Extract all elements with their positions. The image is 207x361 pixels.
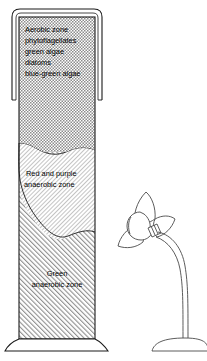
aerobic-line-2: phytoflagellates [25, 36, 77, 45]
figure-canvas: Aerobic zone phytoflagellates green alga… [0, 0, 207, 361]
diagram-svg: Aerobic zone phytoflagellates green alga… [0, 0, 207, 361]
aerobic-line-4: diatoms [25, 58, 51, 67]
gooseneck-arm-inner [156, 237, 183, 338]
lamp-base [152, 338, 207, 351]
gooseneck-arm-outer [158, 232, 188, 338]
desk-lamp [118, 192, 207, 351]
red-purple-line-2: anaerobic zone [24, 180, 75, 189]
green-line-1: Green [47, 269, 68, 278]
aerobic-line-3: green algae [25, 47, 64, 56]
red-purple-line-1: Red and purple [26, 169, 77, 178]
aerobic-line-5: blue-green algae [25, 69, 80, 78]
aerobic-line-1: Aerobic zone [25, 25, 68, 34]
column-base [5, 339, 108, 351]
green-line-2: anaerobic zone [32, 280, 83, 289]
